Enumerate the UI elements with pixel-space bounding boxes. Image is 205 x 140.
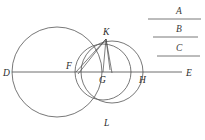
geometry-figure-screenshot: D F G H E K L A B C xyxy=(0,0,205,140)
segment-label-C: C xyxy=(176,43,183,53)
geometry-diagram: D F G H E K L A B C xyxy=(0,0,205,140)
point-label-H: H xyxy=(138,75,147,85)
point-label-G: G xyxy=(99,75,106,85)
point-label-D: D xyxy=(2,68,10,78)
point-label-K: K xyxy=(102,27,110,37)
segment-label-B: B xyxy=(176,24,182,34)
chord-K-down xyxy=(106,39,112,73)
point-label-L: L xyxy=(103,118,109,128)
segment-label-A: A xyxy=(175,6,182,16)
point-label-F: F xyxy=(65,61,72,71)
point-label-E: E xyxy=(185,68,192,78)
